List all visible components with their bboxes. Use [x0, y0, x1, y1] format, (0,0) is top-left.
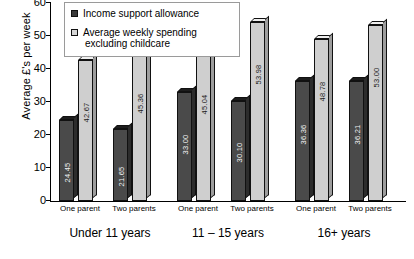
bar-value-label: 45.36: [135, 94, 144, 114]
bar-pair-two-parents: 36.21 53.00: [349, 2, 391, 201]
bar-value-label: 33.00: [180, 135, 189, 155]
x-group-label-under-11-years: Under 11 years: [69, 226, 150, 240]
bar-side-face: [383, 19, 387, 198]
bar-income-support-allowance[interactable]: 21.65: [113, 129, 128, 201]
bar-average-weekly-spending[interactable]: 42.67: [78, 60, 93, 201]
bar-income-support-allowance[interactable]: 30.10: [231, 101, 246, 201]
bar-front-face: [314, 39, 329, 201]
x-group-label-16-plus-years: 16+ years: [317, 226, 370, 240]
x-sub-label-two-parents: Two parents: [348, 204, 392, 213]
legend-label-wrapper: Average weekly spending excluding childc…: [83, 27, 197, 50]
bar-pair-one-parent: 36.36 48.78: [295, 2, 337, 201]
bar-income-support-allowance[interactable]: 24.45: [59, 120, 74, 201]
bar-value-label: 48.78: [317, 82, 326, 102]
legend-swatch-dark-icon: [71, 10, 78, 17]
bar-front-face: [250, 22, 265, 201]
bar-value-label: 42.67: [81, 103, 90, 123]
bar-income-support-allowance[interactable]: 33.00: [177, 92, 192, 201]
bar-front-face: [196, 52, 211, 201]
bar-side-face: [147, 45, 151, 198]
x-group-label-11-15-years: 11 – 15 years: [192, 226, 264, 240]
bar-front-face: [113, 129, 128, 201]
bar-value-label: 24.45: [62, 163, 71, 183]
bar-side-face: [211, 46, 215, 198]
bar-value-label: 21.65: [116, 167, 125, 187]
y-tick-40: 40: [16, 62, 46, 74]
x-sub-label-two-parents: Two parents: [230, 204, 274, 213]
bar-average-weekly-spending[interactable]: 45.04: [196, 52, 211, 201]
bar-front-face: [132, 51, 147, 201]
x-sub-label-two-parents: Two parents: [112, 204, 156, 213]
bar-chart: Average £'s per week 60 50 40 30 20 10 0…: [0, 0, 414, 259]
x-axis-line: [50, 201, 406, 202]
bar-value-label: 36.21: [352, 125, 361, 145]
bar-side-face: [329, 33, 333, 198]
bar-value-label: 30.10: [234, 143, 243, 163]
bar-value-label: 53.98: [253, 65, 262, 85]
bar-front-face: [78, 60, 93, 201]
y-tick-50: 50: [16, 29, 46, 41]
y-tick-0: 0: [16, 194, 46, 206]
bar-value-label: 45.04: [199, 95, 208, 115]
legend-item-average-weekly-spending[interactable]: Average weekly spending excluding childc…: [71, 27, 233, 50]
y-tick-60: 60: [16, 0, 46, 8]
legend-item-income-support-allowance[interactable]: Income support allowance: [71, 8, 233, 20]
legend: Income support allowance Average weekly …: [64, 2, 240, 57]
y-tick-20: 20: [16, 128, 46, 140]
bar-group-16-plus-years: 36.36 48.78 36.21: [287, 2, 405, 201]
legend-label-line1: Average weekly spending: [83, 27, 197, 38]
bar-value-label: 53.00: [371, 68, 380, 88]
bar-average-weekly-spending[interactable]: 45.36: [132, 51, 147, 201]
y-tick-30: 30: [16, 95, 46, 107]
bar-average-weekly-spending[interactable]: 48.78: [314, 39, 329, 201]
bar-average-weekly-spending[interactable]: 53.98: [250, 22, 265, 201]
y-tick-10: 10: [16, 161, 46, 173]
legend-label: Income support allowance: [83, 8, 199, 20]
bar-value-label: 36.36: [298, 125, 307, 145]
legend-label-line2: excluding childcare: [83, 38, 197, 50]
legend-swatch-light-icon: [71, 29, 78, 36]
bar-side-face: [265, 16, 269, 198]
bar-front-face: [59, 120, 74, 201]
bar-income-support-allowance[interactable]: 36.36: [295, 81, 310, 201]
bar-front-face: [368, 25, 383, 201]
x-sub-label-one-parent: One parent: [296, 204, 336, 213]
y-axis-tick-labels: 60 50 40 30 20 10 0: [16, 0, 46, 259]
bar-side-face: [93, 54, 97, 198]
x-sub-label-one-parent: One parent: [178, 204, 218, 213]
x-sub-label-one-parent: One parent: [60, 204, 100, 213]
bar-average-weekly-spending[interactable]: 53.00: [368, 25, 383, 201]
bar-income-support-allowance[interactable]: 36.21: [349, 81, 364, 201]
